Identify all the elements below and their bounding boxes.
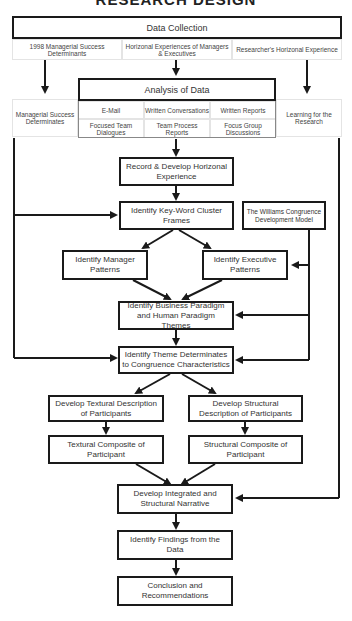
step-textural-description: Develop Textural Description of Particip… — [48, 395, 164, 422]
step-manager-patterns: Identify Manager Patterns — [62, 250, 148, 280]
step-conclusion-recommendations: Conclusion and Recommendations — [117, 576, 233, 606]
source-horizonal-experiences: Horizonal Experiences of Managers & Exec… — [122, 39, 232, 60]
learning-for-research: Learning for the Research — [276, 99, 342, 137]
step-executive-patterns: Identify Executive Patterns — [202, 250, 288, 280]
step-keyword-cluster: Identify Key-Word Cluster Frames — [119, 201, 234, 230]
step-structural-description: Develop Structural Description of Partic… — [188, 395, 303, 422]
step-business-human-paradigm: Identify Business Paradigm and Human Par… — [118, 301, 234, 330]
data-collection-header: Data Collection — [12, 16, 342, 39]
source-researcher-experience: Researcher's Horizonal Experience — [232, 39, 342, 60]
analysis-of-data-header: Analysis of Data — [78, 78, 276, 101]
step-identify-findings: Identify Findings from the Data — [117, 530, 233, 560]
step-structural-composite: Structural Composite of Participant — [188, 435, 303, 464]
step-textural-composite: Textural Composite of Participant — [48, 435, 164, 464]
analysis-grid-frame — [78, 101, 276, 138]
step-record-develop: Record & Develop Horizonal Experience — [119, 157, 234, 186]
source-managerial-success: 1998 Managerial Success Determinants — [12, 39, 122, 60]
williams-congruence-model: The Williams Congruence Development Mode… — [242, 201, 326, 230]
step-integrated-narrative: Develop Integrated and Structural Narrat… — [117, 484, 233, 514]
step-theme-determinates: Identify Theme Determinates to Congruenc… — [118, 346, 234, 374]
managerial-success-determinates: Managerial Success Determinates — [12, 99, 78, 137]
